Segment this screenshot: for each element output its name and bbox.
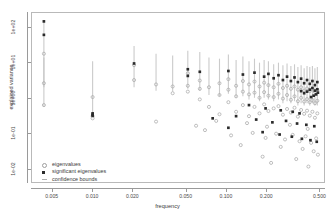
x-tick-label: 0.050 [179,193,192,199]
eigenvalue-point [298,140,301,143]
eigenvalue-point [265,125,268,128]
eigenvalue-point [171,92,174,95]
eigenvalue-point [308,114,311,117]
eigenvalue-point [207,105,210,108]
significant-eigenvalue-point [290,80,293,83]
significant-eigenvalue-point [133,62,136,65]
eigenvalue-point [295,158,298,161]
eigenvalue-point [218,113,221,116]
significant-eigenvalue-point [282,79,285,82]
x-tick-mark [319,188,320,192]
chart-legend: eigenvalues significant eigenvalues conf… [40,161,160,183]
x-tick-mark [52,188,53,192]
significant-eigenvalue-point [248,104,251,107]
eigenvalue-point [195,124,198,127]
significant-eigenvalue-point [313,125,316,128]
significant-eigenvalue-point [316,88,319,91]
filled-square-icon [42,171,45,174]
eigenvalue-point [306,127,309,130]
y-tick-mark [27,169,31,170]
eigenvalue-point [263,103,266,106]
eigenvalue-point [270,161,273,164]
eigenvalue-point [304,135,307,138]
eigenvalue-point [303,112,306,115]
significant-eigenvalue-point [271,121,274,124]
significant-eigenvalue-point [298,112,301,115]
significant-eigenvalue-point [300,77,303,80]
significant-eigenvalue-point [227,126,230,129]
eigenvalue-point [261,155,264,158]
eigenvalue-point [235,110,238,113]
significant-eigenvalue-point [211,117,214,120]
legend-label-significant-eigenvalues: significant eigenvalues [52,168,106,175]
eigenvalue-point [312,150,315,153]
significant-eigenvalue-point [91,114,94,117]
y-tick-mark [27,27,31,28]
x-tick-label: 0.500 [313,193,326,199]
eigenvalue-point [198,98,201,101]
data-layer [32,13,324,182]
eigenvalue-point [310,141,313,144]
significant-eigenvalue-point [263,75,266,78]
significant-eigenvalue-point [261,131,264,134]
significant-eigenvalue-point [310,96,313,99]
significant-eigenvalue-point [311,80,314,83]
legend-item-eigenvalues: eigenvalues [40,161,160,168]
significant-eigenvalue-point [227,70,230,73]
eigenvalue-point [283,138,286,141]
significant-eigenvalue-point [315,140,318,143]
significant-eigenvalue-point [306,90,309,93]
eigenvalue-point [247,115,250,118]
significant-eigenvalue-point [314,84,317,87]
eigenvalue-point [311,110,314,113]
y-tick-label: 1e-02 [10,157,16,181]
eigenvalue-point [241,104,244,107]
eigenvalue-point [296,115,299,118]
significant-eigenvalue-point [186,68,189,71]
significant-eigenvalue-point [279,109,282,112]
significant-eigenvalue-point [314,89,317,92]
significant-eigenvalue-point [303,92,306,95]
eigenvalue-point [155,120,158,123]
significant-eigenvalue-point [264,107,267,110]
significant-eigenvalue-point [293,76,296,79]
significant-eigenvalue-point [277,74,280,77]
y-tick-label: 1e-01 [10,121,16,145]
eigenvalue-point [286,107,289,110]
x-tick-mark [226,188,227,192]
significant-eigenvalue-point [308,82,311,85]
significant-eigenvalue-point [253,71,256,74]
significant-eigenvalue-point [198,70,201,73]
eigenvalue-point [279,145,282,148]
eigenvalue-point [281,113,284,116]
eigenvalue-point [264,136,267,139]
legend-label-eigenvalues: eigenvalues [52,161,81,168]
eigenvalue-point [272,107,275,110]
significant-eigenvalue-point [235,115,238,118]
eigenvalue-point [186,90,189,93]
eigenvalue-point [267,109,270,112]
legend-label-confidence-bounds: confidence bounds [52,176,97,183]
significant-eigenvalue-point [43,34,46,37]
x-tick-label: 0.020 [126,193,139,199]
eigenvalue-point [315,137,318,140]
vertical-line-icon [42,179,47,180]
x-axis-title: frequency [0,203,335,209]
plot-frame [31,12,325,183]
eigenvalue-point [251,131,254,134]
legend-item-significant-eigenvalues: significant eigenvalues [40,168,160,175]
significant-eigenvalue-point [255,118,258,121]
eigenvalue-point [91,117,94,120]
x-tick-mark [266,188,267,192]
x-tick-label: 0.100 [220,193,233,199]
significant-eigenvalue-point [186,75,189,78]
eigenvalue-point [288,123,291,126]
significant-eigenvalue-point [312,94,315,97]
x-axis-line [31,188,325,189]
eigenvalue-point [258,112,261,115]
significant-eigenvalue-point [278,133,281,136]
significant-eigenvalue-point [308,88,311,91]
eigenvalue-point [203,129,206,132]
y-axis-title: explained variance [8,50,14,124]
significant-eigenvalue-point [272,77,275,80]
